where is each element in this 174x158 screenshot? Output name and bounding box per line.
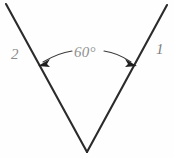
angle-value-label: 60°	[74, 44, 96, 60]
left-arrowhead-icon	[38, 59, 50, 67]
ray-right-line	[87, 5, 167, 152]
ray-label-1: 1	[156, 41, 164, 57]
angle-dimension-arc-left	[43, 51, 72, 62]
ray-label-2: 2	[11, 46, 19, 62]
angle-diagram-canvas: 2 1 60°	[0, 0, 174, 158]
ray-left-line	[6, 4, 87, 152]
angle-diagram-svg: 2 1 60°	[0, 0, 174, 158]
